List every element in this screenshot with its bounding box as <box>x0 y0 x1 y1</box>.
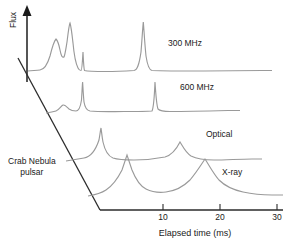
trace-label-optical: Optical <box>206 129 232 139</box>
figure-canvas <box>0 0 285 243</box>
trace-path-300mhz <box>28 22 272 72</box>
source-annotation: Crab Nebula pulsar <box>8 156 56 177</box>
x-axis-title: Elapsed time (ms) <box>159 228 232 238</box>
depth-axis-line <box>18 58 100 210</box>
trace-label-600mhz: 600 MHz <box>180 82 214 92</box>
trace-label-xray: X-ray <box>222 167 242 177</box>
trace-label-300mhz: 300 MHz <box>168 38 202 48</box>
x-axis-ticks <box>163 204 277 210</box>
source-annotation-line2: pulsar <box>8 167 56 178</box>
trace-path-xray <box>88 155 283 196</box>
tick-label-10: 10 <box>158 212 167 222</box>
source-annotation-line1: Crab Nebula <box>8 156 56 167</box>
flux-axis-label: Flux <box>8 12 18 28</box>
trace-path-optical <box>66 128 262 161</box>
pulsar-light-curve-figure: Flux Crab Nebula pulsar 300 MHz 600 MHz … <box>0 0 285 243</box>
tick-label-20: 20 <box>215 212 224 222</box>
tick-label-30: 30 <box>272 212 281 222</box>
